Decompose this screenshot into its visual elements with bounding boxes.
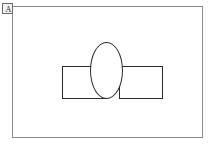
canvas-frame [12,6,203,138]
rectangle-right [119,66,163,99]
shape-stage [13,7,202,137]
figure-root: A [0,0,210,147]
ellipse-center [90,42,123,99]
panel-label-text: A [3,4,14,15]
panel-label-box: A [2,3,13,14]
